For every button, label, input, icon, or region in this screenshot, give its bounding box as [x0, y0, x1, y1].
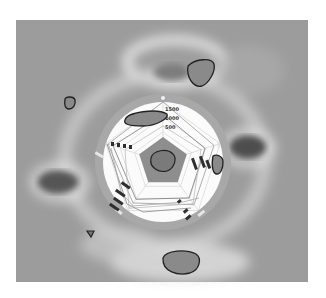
radar-chart: 1500 1000 500 — [95, 94, 231, 230]
blob-bottom — [163, 251, 199, 274]
heatmap-radar-figure: 1500 1000 500 — [0, 0, 326, 298]
tick-500: 500 — [165, 124, 176, 130]
blob-right-chart — [212, 155, 223, 174]
blob-left-small — [65, 97, 76, 109]
tick-1500: 1500 — [165, 106, 179, 112]
blob-center — [151, 151, 175, 172]
